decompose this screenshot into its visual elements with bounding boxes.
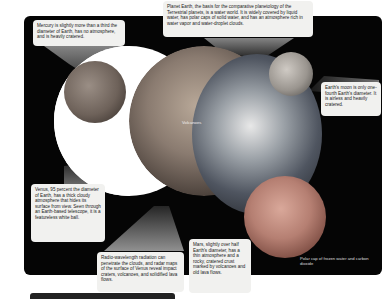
- next-figure-edge: [30, 293, 175, 299]
- radio-callout: Radio-wavelength radiation can penetrate…: [97, 252, 184, 292]
- polar-cap-label: Polar cap of frozen water and carbon dio…: [300, 256, 370, 266]
- mars: [244, 176, 326, 258]
- moon: [269, 52, 313, 96]
- volcanoes-label: Volcanoes: [182, 120, 201, 125]
- mercury-callout: Mercury is slightly more than a third th…: [33, 20, 125, 46]
- mars-callout: Mars, slightly over half Earth's diamete…: [189, 239, 251, 293]
- moon-callout: Earth's moon is only one-fourth Earth's …: [321, 82, 381, 116]
- venus-callout: Venus, 95 percent the diameter of Earth,…: [31, 184, 105, 242]
- mercury: [64, 61, 126, 123]
- earth-callout: Planet Earth, the basis for the comparat…: [163, 1, 313, 37]
